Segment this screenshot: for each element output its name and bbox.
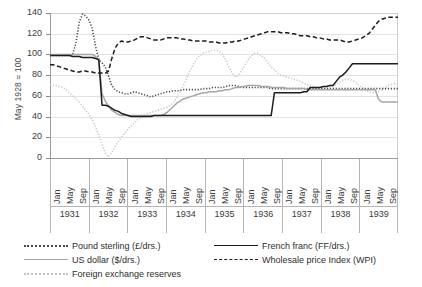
y-tick-label: 60 [8, 90, 42, 100]
x-axis-divider [167, 206, 205, 207]
x-axis-divider [283, 206, 321, 207]
x-tick-label-year: 1937 [283, 209, 321, 219]
x-tick-label-year: 1939 [360, 209, 397, 219]
chart-legend: Pound sterling (£/drs.)US dollar ($/drs.… [24, 240, 416, 286]
x-axis-divider [90, 206, 128, 207]
y-tick-label: 80 [8, 69, 42, 79]
y-tick-label: 140 [8, 7, 42, 17]
x-tick-label-year: 1934 [167, 209, 205, 219]
legend-swatch-icon [24, 242, 68, 249]
series-line [50, 55, 398, 116]
legend-label: Wholesale price Index (WPI) [262, 255, 376, 265]
legend-item: Foreign exchange reserves [24, 268, 181, 279]
x-axis-divider [206, 206, 244, 207]
legend-swatch-icon [24, 256, 68, 263]
x-axis-divider [128, 206, 166, 207]
legend-label: US dollar ($/drs.) [72, 255, 140, 265]
chart-container: May 1928 = 100 020406080100120140 JanMay… [0, 0, 422, 287]
series-line [50, 14, 398, 97]
x-axis-year-band: JanMaySep1939 [359, 159, 398, 233]
legend-swatch-icon [214, 256, 258, 263]
x-axis-divider [322, 206, 360, 207]
x-tick-label-year: 1932 [90, 209, 128, 219]
y-tick-label: 40 [8, 111, 42, 121]
x-tick-label-year: 1933 [128, 209, 166, 219]
legend-label: Pound sterling (£/drs.) [72, 241, 161, 251]
legend-swatch-icon [214, 242, 258, 249]
y-tick-label: 100 [8, 48, 42, 58]
legend-swatch-icon [24, 270, 68, 277]
x-tick-label-year: 1935 [206, 209, 244, 219]
series-plot-area [50, 13, 398, 158]
x-tick-label-month: Sep [372, 162, 414, 204]
x-axis-divider [244, 206, 282, 207]
legend-item: US dollar ($/drs.) [24, 254, 140, 265]
legend-item: Wholesale price Index (WPI) [214, 254, 376, 265]
x-tick-label-year: 1938 [322, 209, 360, 219]
series-line [50, 17, 398, 73]
legend-label: Foreign exchange reserves [72, 269, 181, 279]
x-tick-label-year: 1931 [51, 209, 89, 219]
legend-item: French franc (FF/drs.) [214, 240, 350, 251]
x-axis-divider [360, 206, 397, 207]
legend-item: Pound sterling (£/drs.) [24, 240, 161, 251]
y-tick-label: 0 [8, 152, 42, 162]
x-tick-label-year: 1936 [244, 209, 282, 219]
y-tick-label: 120 [8, 28, 42, 38]
x-axis-divider [51, 206, 89, 207]
y-tick-label: 20 [8, 131, 42, 141]
legend-label: French franc (FF/drs.) [262, 241, 350, 251]
x-axis-month-row: JanMaySep [360, 159, 397, 206]
